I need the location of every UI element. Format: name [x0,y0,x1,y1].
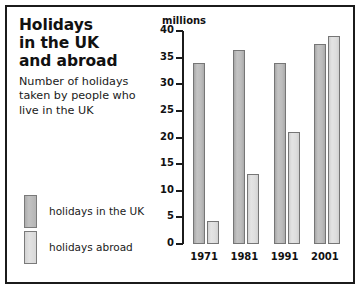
y-tick-mark [176,110,183,112]
bar-2001-uk [314,44,326,244]
y-tick-label: 0 [167,237,174,248]
bar-1981-uk [233,50,245,244]
legend-label-uk: holidays in the UK [49,205,144,217]
bar-1971-abroad [207,221,219,244]
y-tick-label: 40 [160,24,174,35]
y-tick-label: 10 [160,184,174,195]
bar-2001-abroad [328,36,340,244]
legend-swatch-icon-uk [24,195,37,228]
subtitle-line-2: taken by people who [19,89,149,103]
bar-group-1981: 1981 [224,31,264,244]
y-tick-label: 20 [160,131,174,142]
y-tick-mark [176,137,183,139]
y-tick-mark [176,216,183,218]
legend-swatch-icon-abroad [24,231,37,264]
subtitle-line-3: live in the UK [19,104,149,118]
x-tick-label-2001: 2001 [305,251,345,262]
bar-1991-uk [274,63,286,244]
x-tick-label-1981: 1981 [224,251,264,262]
bar-1971-uk [193,63,205,244]
y-tick-label: 35 [160,51,174,62]
bar-1981-abroad [247,174,259,244]
y-tick-label: 25 [160,104,174,115]
page-title: Holidays in the UK and abroad [19,17,147,71]
y-tick-mark [176,243,183,245]
x-tick-label-1971: 1971 [184,251,224,262]
plot-area: 0510152025303540 1971198119912001 [182,31,345,244]
y-tick-label: 30 [160,77,174,88]
title-line-1: Holidays [19,17,147,35]
y-tick-mark [176,83,183,85]
subtitle-line-1: Number of holidays [19,75,149,89]
bars-container: 1971198119912001 [184,31,345,244]
x-tick-label-1991: 1991 [265,251,305,262]
title-line-2: in the UK [19,35,147,53]
y-tick-mark [176,190,183,192]
chart-subtitle: Number of holidays taken by people who l… [19,75,149,118]
plot-panel: millions 0510152025303540 19711981199120… [152,7,353,282]
title-line-3: and abroad [19,53,147,71]
y-tick-mark [176,30,183,32]
legend-label-abroad: holidays abroad [49,241,133,253]
bar-1991-abroad [288,132,300,244]
y-tick-mark [176,163,183,165]
text-panel: Holidays in the UK and abroad Number of … [7,7,152,282]
chart-frame: Holidays in the UK and abroad Number of … [5,5,355,284]
y-tick-label: 5 [167,210,174,221]
bar-group-2001: 2001 [305,31,345,244]
y-tick-mark [176,57,183,59]
y-tick-label: 15 [160,157,174,168]
bar-group-1971: 1971 [184,31,224,244]
bar-group-1991: 1991 [265,31,305,244]
chart-figure: Holidays in the UK and abroad Number of … [0,0,359,289]
